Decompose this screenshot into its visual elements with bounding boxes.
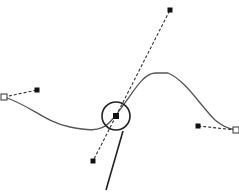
selected-node-icon[interactable] xyxy=(113,113,119,119)
bezier-diagram xyxy=(0,0,239,195)
nodes xyxy=(113,113,119,119)
anchors xyxy=(1,94,239,133)
start-anchor-icon[interactable] xyxy=(1,94,7,100)
node-handle-upper-line xyxy=(116,10,170,116)
handle-points xyxy=(35,8,201,164)
handle-lines xyxy=(4,10,236,161)
end-handle-line xyxy=(198,126,236,130)
bezier-curve[interactable] xyxy=(4,73,236,130)
node-handle-lower-point-icon[interactable] xyxy=(91,159,96,164)
start-handle-point-icon[interactable] xyxy=(35,88,40,93)
start-handle-line xyxy=(4,90,37,97)
end-anchor-icon[interactable] xyxy=(233,127,239,133)
diagram-canvas xyxy=(0,0,239,195)
callout-pointer-line xyxy=(106,131,123,190)
node-handle-upper-point-icon[interactable] xyxy=(168,8,173,13)
end-handle-point-icon[interactable] xyxy=(196,124,201,129)
